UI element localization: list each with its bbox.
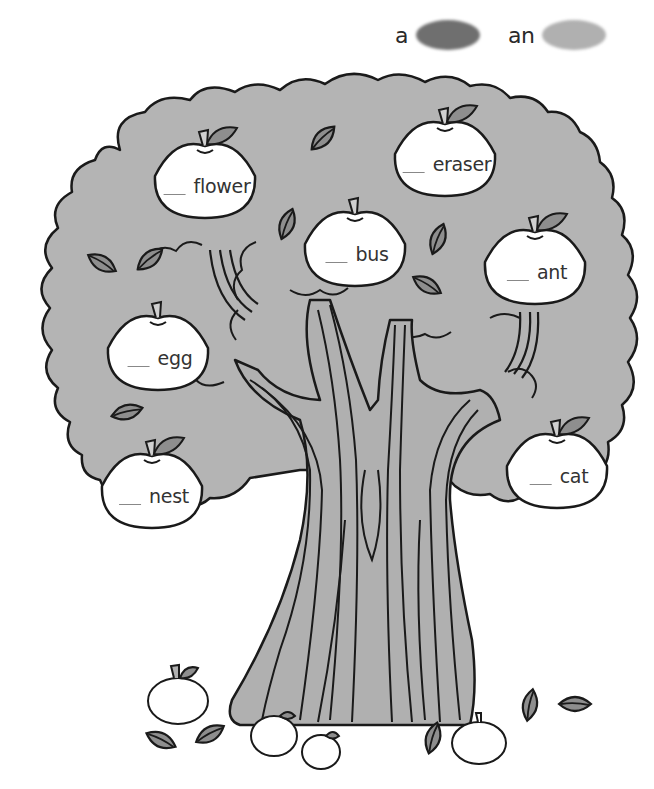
apple-word: ant bbox=[537, 261, 567, 283]
answer-blank[interactable] bbox=[507, 280, 529, 281]
apple-tree-illustration bbox=[0, 0, 654, 789]
apple-word: flower bbox=[194, 175, 251, 197]
apple-label-egg[interactable]: egg bbox=[128, 347, 193, 369]
answer-blank[interactable] bbox=[403, 172, 425, 173]
apple-word: cat bbox=[560, 465, 589, 487]
apple-word: eraser bbox=[433, 153, 492, 175]
apple-label-nest[interactable]: nest bbox=[119, 485, 189, 507]
answer-blank[interactable] bbox=[325, 262, 347, 263]
apple-label-flower[interactable]: flower bbox=[164, 175, 251, 197]
answer-blank[interactable] bbox=[128, 366, 150, 367]
apple-word: nest bbox=[149, 485, 189, 507]
apple-label-eraser[interactable]: eraser bbox=[403, 153, 492, 175]
apple-label-cat[interactable]: cat bbox=[530, 465, 589, 487]
apple-word: bus bbox=[355, 243, 388, 265]
answer-blank[interactable] bbox=[530, 484, 552, 485]
apple-label-bus[interactable]: bus bbox=[325, 243, 388, 265]
answer-blank[interactable] bbox=[164, 194, 186, 195]
answer-blank[interactable] bbox=[119, 504, 141, 505]
apple-word: egg bbox=[158, 347, 193, 369]
apple-label-ant[interactable]: ant bbox=[507, 261, 567, 283]
